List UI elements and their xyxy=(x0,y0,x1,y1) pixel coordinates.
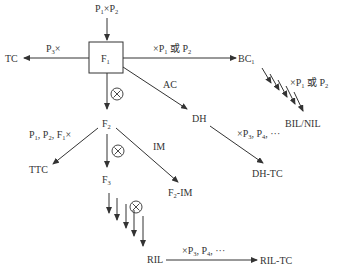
node-dh-tc: DH-TC xyxy=(252,168,283,179)
edge-label-im: IM xyxy=(153,141,165,152)
node-ril-tc: RIL-TC xyxy=(260,255,293,266)
breeding-flowchart: P1×P2 F1 P3× TC ×P1 或 P2 BC1 ×P1 或 P2 BI… xyxy=(0,0,338,270)
edge-label-p3-cross: P3× xyxy=(46,43,60,55)
edge-label-ril-testcross: ×P3, P4, ··· xyxy=(182,245,225,257)
selfing-icon xyxy=(112,145,124,157)
edge-label-bc-repeat: ×P1 或 P2 xyxy=(290,77,328,89)
node-f2-im: F2-IM xyxy=(168,187,192,199)
node-parents: P1×P2 xyxy=(95,3,118,15)
node-ril: RIL xyxy=(147,254,163,265)
node-tc: TC xyxy=(5,53,18,64)
node-f3: F3 xyxy=(102,174,111,186)
edge-bc1-bil-nil-repeated xyxy=(262,68,303,111)
edge-label-triple-testcross: P1, P2, F1× xyxy=(29,129,71,141)
edge-label-ac: AC xyxy=(163,79,177,90)
node-f1: F1 xyxy=(89,42,123,73)
node-bil-nil: BIL/NIL xyxy=(285,118,321,129)
node-ttc: TTC xyxy=(29,164,48,175)
svg-text:P1×P2: P1×P2 xyxy=(95,3,118,15)
edge-label-backcross: ×P1 或 P2 xyxy=(153,43,191,55)
selfing-icon xyxy=(111,88,123,100)
node-bc1: BC1 xyxy=(238,53,255,65)
selfing-icon xyxy=(130,201,142,213)
node-f2: F2 xyxy=(102,118,111,130)
node-dh: DH xyxy=(192,113,206,124)
edge-label-dh-testcross: ×P3, P4, ··· xyxy=(237,128,280,140)
edge-f1-dh xyxy=(123,67,187,109)
edge-f2-f2im xyxy=(116,128,178,182)
